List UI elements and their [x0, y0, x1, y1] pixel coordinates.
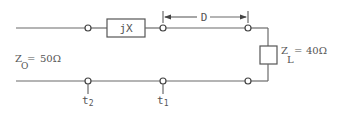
circuit-diagram: jX D t2 t1 Z O = 50Ω Z L = 40Ω: [0, 0, 343, 115]
line-impedance-value: 50Ω: [40, 53, 61, 64]
series-reactance-label: jX: [119, 22, 133, 35]
load-impedance-equals: =: [294, 45, 302, 56]
terminal-t1-symbol: t: [157, 94, 164, 107]
node-top-load: [245, 25, 251, 31]
terminal-t2-label: t2: [82, 94, 94, 108]
load-impedance-subscript: L: [287, 54, 294, 65]
node-bottom-t1: [160, 78, 166, 84]
terminal-t1-subscript: 1: [164, 99, 169, 108]
distance-arrowhead-right-icon: [240, 15, 247, 20]
line-impedance-equals: =: [27, 53, 35, 64]
node-top-t1: [160, 25, 166, 31]
load-impedance-value: 40Ω: [306, 45, 327, 56]
distance-label: D: [201, 11, 208, 24]
node-bottom-t2: [85, 78, 91, 84]
load-impedance-box: [260, 46, 277, 64]
distance-arrowhead-left-icon: [164, 15, 171, 20]
terminal-t2-symbol: t: [82, 94, 89, 107]
node-bottom-load: [245, 78, 251, 84]
terminal-t1-label: t1: [157, 94, 169, 108]
node-top-t2: [85, 25, 91, 31]
terminal-t2-subscript: 2: [89, 99, 94, 108]
